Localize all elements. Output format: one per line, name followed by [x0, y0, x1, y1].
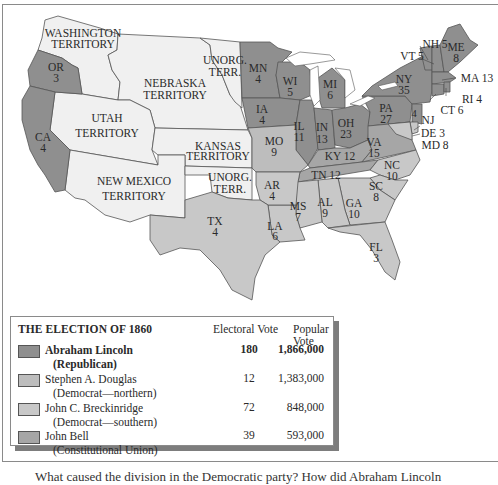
swatch-democrat-southern	[18, 403, 40, 416]
us-map-1860: WASHINGTON TERRITORY NEBRASKA TERRITORY …	[0, 0, 498, 320]
candidate: John C. Breckinridge (Democrat—southern)	[45, 401, 157, 429]
label-unorg-north: UNORG.	[203, 54, 247, 66]
state-connecticut	[432, 84, 444, 96]
label-ri: RI 4	[462, 93, 482, 105]
label-nebraska-territory: NEBRASKA	[144, 77, 207, 89]
candidate: Abraham Lincoln (Republican)	[45, 343, 133, 371]
swatch-democrat-northern	[18, 374, 40, 387]
label-washington-territory-2: TERRITORY	[51, 38, 115, 50]
label-il-ev: 11	[293, 131, 304, 143]
label-al-ev: 9	[322, 207, 328, 219]
label-in-ev: 13	[316, 133, 328, 145]
label-unorg-south-2: TERR.	[214, 183, 246, 195]
popular-vote: 1,866,000	[278, 343, 324, 355]
lake-superior	[286, 52, 335, 66]
label-nj-ev: 4	[411, 108, 417, 119]
candidate: John Bell (Constitutional Union)	[45, 429, 157, 457]
label-vt: VT 5	[400, 50, 424, 62]
candidate-name: Stephen A. Douglas	[45, 373, 137, 385]
label-ny-ev: 35	[398, 84, 410, 96]
legend-row-lincoln: Abraham Lincoln (Republican) 180 1,866,0…	[18, 343, 328, 371]
label-wi-ev: 5	[287, 86, 293, 98]
legend-header: THE ELECTION OF 1860 Electoral Vote Popu…	[18, 323, 329, 339]
state-florida	[328, 222, 400, 280]
label-tn: TN 12	[311, 169, 341, 181]
swatch-republican	[18, 345, 40, 358]
label-de: DE 3	[421, 127, 445, 139]
popular-vote: 848,000	[287, 401, 324, 413]
column-header-electoral-vote: Electoral Vote	[213, 323, 278, 335]
label-la-ev: 6	[272, 230, 278, 242]
label-ar-ev: 4	[269, 190, 275, 202]
label-ma: MA 13	[461, 72, 494, 84]
candidate-party: (Constitutional Union)	[45, 443, 157, 457]
label-ms-ev: 7	[295, 211, 301, 223]
label-md: MD 8	[421, 139, 448, 151]
legend-row-douglas: Stephen A. Douglas (Democrat—northern) 1…	[18, 372, 328, 400]
label-or-ev: 3	[53, 72, 59, 84]
electoral-vote: 39	[236, 429, 262, 441]
label-unorg-south: UNORG.	[208, 171, 252, 183]
state-iowa	[242, 98, 300, 128]
candidate-party: (Republican)	[45, 357, 133, 371]
candidate-name: John C. Breckinridge	[45, 402, 143, 414]
label-utah-territory: UTAH	[91, 112, 122, 124]
electoral-vote: 72	[236, 401, 262, 413]
label-mi-ev: 6	[327, 89, 333, 101]
label-utah-territory-2: TERRITORY	[75, 127, 139, 139]
candidate-name: Abraham Lincoln	[45, 344, 133, 356]
legend-row-breckinridge: John C. Breckinridge (Democrat—southern)…	[18, 401, 328, 429]
caption-question: What caused the division in the Democrat…	[35, 469, 441, 485]
label-nebraska-territory-2: TERRITORY	[143, 89, 207, 101]
label-new-mexico-territory: NEW MEXICO	[97, 175, 171, 187]
election-legend: THE ELECTION OF 1860 Electoral Vote Popu…	[10, 316, 334, 446]
electoral-vote: 180	[236, 343, 262, 355]
state-rhode-island	[444, 82, 450, 92]
label-in: IN	[316, 121, 329, 133]
label-nc-ev: 10	[386, 170, 398, 182]
label-unorg-north-2: TERR.	[209, 66, 241, 78]
label-ga-ev: 10	[348, 208, 360, 220]
label-fl-ev: 3	[373, 252, 379, 264]
label-sc-ev: 8	[373, 191, 379, 203]
label-ca-ev: 4	[40, 142, 46, 154]
divider	[2, 461, 498, 462]
label-mo-ev: 9	[271, 146, 277, 158]
label-tx-ev: 4	[212, 226, 218, 238]
popular-vote: 1,383,000	[278, 372, 324, 384]
candidate-name: John Bell	[45, 430, 89, 442]
legend-title: THE ELECTION OF 1860	[18, 323, 152, 335]
candidate-party: (Democrat—northern)	[45, 386, 156, 400]
label-ia-ev: 4	[259, 114, 265, 126]
popular-vote: 593,000	[287, 429, 324, 441]
label-ky: KY 12	[325, 150, 356, 162]
electoral-vote: 12	[236, 372, 262, 384]
swatch-constitutional-union	[18, 431, 40, 444]
legend-row-bell: John Bell (Constitutional Union) 39 593,…	[18, 429, 328, 457]
lake-michigan	[310, 66, 320, 106]
label-va-ev: 15	[368, 147, 380, 159]
label-oh-ev: 23	[340, 128, 352, 140]
label-new-mexico-territory-2: TERRITORY	[102, 190, 166, 202]
label-nj: NJ	[422, 114, 435, 126]
label-pa-ev: 27	[380, 113, 392, 125]
label-mn-ev: 4	[255, 73, 261, 85]
label-me-ev: 8	[453, 52, 459, 64]
candidate: Stephen A. Douglas (Democrat—northern)	[45, 372, 156, 400]
label-ct: CT 6	[440, 104, 463, 116]
label-nh: NH 5	[422, 38, 447, 50]
candidate-party: (Democrat—southern)	[45, 415, 157, 429]
label-kansas-territory-2: TERRITORY	[186, 150, 250, 162]
